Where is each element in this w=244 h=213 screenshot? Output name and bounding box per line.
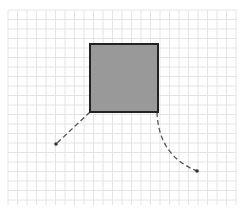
diagram-canvas [0, 0, 244, 213]
arrow-left[interactable] [56, 112, 90, 144]
arrows [54, 112, 199, 173]
arrow-right-head-icon [195, 169, 199, 173]
square-shape[interactable] [90, 44, 158, 112]
arrow-left-head-icon [54, 142, 58, 146]
